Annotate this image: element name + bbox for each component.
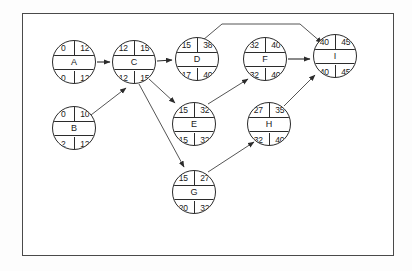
node-a-ef: 12 [75, 41, 96, 55]
node-e-ls: 15 [173, 133, 195, 147]
node-h-label: H [248, 118, 290, 131]
node-h-earliest-row: 27 35 [248, 103, 290, 118]
node-b-label-row: B [53, 122, 95, 136]
diagram-canvas: 0 12 A 0 12 0 10 B 2 12 12 15 C [0, 0, 412, 271]
node-g-earliest-row: 15 27 [173, 171, 215, 186]
node-d-ls: 17 [176, 68, 198, 82]
node-i-ls: 40 [314, 65, 336, 79]
node-g-ef: 27 [195, 171, 216, 185]
node-b-ls: 2 [53, 137, 75, 151]
node-f-ef: 40 [266, 38, 287, 52]
node-d-lf: 40 [198, 68, 219, 82]
node-b-latest-row: 2 12 [53, 136, 95, 150]
node-b[interactable]: 0 10 B 2 12 [52, 106, 96, 150]
node-h-lf: 40 [270, 133, 291, 147]
node-g-label: G [173, 186, 215, 199]
node-i-ef: 45 [336, 35, 357, 49]
node-f-es: 32 [244, 38, 266, 52]
node-a-ls: 0 [53, 71, 75, 85]
node-a-label-row: A [53, 56, 95, 70]
node-b-ef: 10 [75, 107, 96, 121]
node-h-ef: 35 [270, 103, 291, 117]
node-h-label-row: H [248, 118, 290, 132]
node-g-lf: 32 [195, 201, 216, 215]
node-a-latest-row: 0 12 [53, 70, 95, 84]
node-c-ef: 15 [135, 41, 156, 55]
node-c-es: 12 [113, 41, 135, 55]
node-f-earliest-row: 32 40 [244, 38, 286, 53]
node-e-latest-row: 15 32 [173, 132, 215, 146]
node-f-latest-row: 32 40 [244, 67, 286, 81]
node-b-lf: 12 [75, 137, 96, 151]
node-d-latest-row: 17 40 [176, 67, 218, 81]
node-e-label: E [173, 118, 215, 131]
node-d-ef: 38 [198, 38, 219, 52]
node-g-label-row: G [173, 186, 215, 200]
node-i-es: 40 [314, 35, 336, 49]
node-f-label-row: F [244, 53, 286, 67]
node-h-latest-row: 32 40 [248, 132, 290, 146]
node-c[interactable]: 12 15 C 12 15 [112, 40, 156, 84]
node-d-earliest-row: 15 38 [176, 38, 218, 53]
node-b-label: B [53, 122, 95, 135]
node-h[interactable]: 27 35 H 32 40 [247, 102, 291, 146]
node-h-ls: 32 [248, 133, 270, 147]
node-f-label: F [244, 53, 286, 66]
node-d-es: 15 [176, 38, 198, 52]
node-a-es: 0 [53, 41, 75, 55]
node-c-label-row: C [113, 56, 155, 70]
node-f[interactable]: 32 40 F 32 40 [243, 37, 287, 81]
node-c-earliest-row: 12 15 [113, 41, 155, 56]
node-i-latest-row: 40 45 [314, 64, 356, 78]
node-i[interactable]: 40 45 I 40 45 [313, 34, 357, 78]
node-b-es: 0 [53, 107, 75, 121]
node-a-label: A [53, 56, 95, 69]
node-e-label-row: E [173, 118, 215, 132]
node-e-es: 15 [173, 103, 195, 117]
node-i-lf: 45 [336, 65, 357, 79]
node-e-ef: 32 [195, 103, 216, 117]
node-h-es: 27 [248, 103, 270, 117]
node-c-label: C [113, 56, 155, 69]
node-e-earliest-row: 15 32 [173, 103, 215, 118]
node-c-lf: 15 [135, 71, 156, 85]
node-f-ls: 32 [244, 68, 266, 82]
node-e[interactable]: 15 32 E 15 32 [172, 102, 216, 146]
node-i-label: I [314, 50, 356, 63]
node-g-latest-row: 20 32 [173, 200, 215, 214]
node-c-ls: 12 [113, 71, 135, 85]
node-d[interactable]: 15 38 D 17 40 [175, 37, 219, 81]
node-d-label: D [176, 53, 218, 66]
node-a-earliest-row: 0 12 [53, 41, 95, 56]
node-c-latest-row: 12 15 [113, 70, 155, 84]
node-i-label-row: I [314, 50, 356, 64]
node-g[interactable]: 15 27 G 20 32 [172, 170, 216, 214]
node-a[interactable]: 0 12 A 0 12 [52, 40, 96, 84]
node-g-ls: 20 [173, 201, 195, 215]
node-i-earliest-row: 40 45 [314, 35, 356, 50]
node-f-lf: 40 [266, 68, 287, 82]
node-e-lf: 32 [195, 133, 216, 147]
node-b-earliest-row: 0 10 [53, 107, 95, 122]
node-a-lf: 12 [75, 71, 96, 85]
node-g-es: 15 [173, 171, 195, 185]
node-d-label-row: D [176, 53, 218, 67]
